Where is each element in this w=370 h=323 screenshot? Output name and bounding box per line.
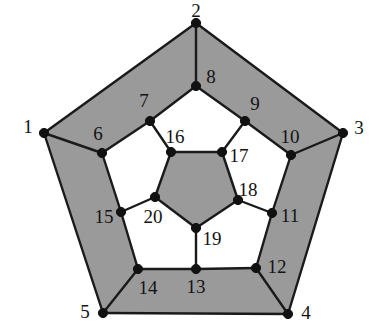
vertex-label-3: 3 — [354, 118, 364, 137]
vertex-label-2: 2 — [191, 1, 201, 20]
graph-vertex-16 — [166, 147, 175, 156]
vertex-label-11: 11 — [281, 206, 299, 225]
vertex-label-16: 16 — [166, 127, 185, 146]
graph-vertex-7 — [145, 116, 154, 125]
vertex-label-14: 14 — [139, 278, 158, 297]
graph-vertex-10 — [286, 150, 295, 159]
graph-vertex-8 — [191, 81, 200, 90]
graph-vertex-20 — [150, 192, 159, 201]
vertex-label-8: 8 — [206, 67, 216, 86]
graph-vertex-4 — [283, 309, 292, 318]
graph-vertex-9 — [240, 116, 249, 125]
vertex-label-13: 13 — [187, 277, 206, 296]
graph-vertex-6 — [97, 148, 106, 157]
graph-vertex-1 — [39, 128, 48, 137]
graph-vertex-15 — [116, 207, 125, 216]
vertex-label-4: 4 — [301, 303, 311, 322]
graph-vertex-3 — [338, 128, 347, 137]
graph-edge-12-13 — [196, 268, 256, 269]
vertex-label-20: 20 — [144, 207, 163, 226]
vertex-label-18: 18 — [239, 180, 258, 199]
vertex-label-15: 15 — [95, 207, 114, 226]
vertex-label-19: 19 — [203, 229, 222, 248]
graph-edge-4-5 — [103, 313, 288, 314]
graph-vertex-13 — [191, 264, 200, 273]
graph-canvas — [0, 0, 370, 323]
vertex-label-12: 12 — [268, 257, 287, 276]
vertex-label-5: 5 — [80, 302, 90, 321]
graph-vertex-12 — [251, 263, 260, 272]
vertex-label-6: 6 — [93, 124, 103, 143]
vertex-label-17: 17 — [230, 146, 249, 165]
graph-vertex-17 — [217, 147, 226, 156]
graph-vertex-5 — [98, 308, 107, 317]
graph-vertex-11 — [267, 208, 276, 217]
graph-vertex-14 — [133, 264, 142, 273]
vertex-label-7: 7 — [139, 91, 149, 110]
graph-vertex-19 — [191, 223, 200, 232]
vertex-label-9: 9 — [250, 94, 260, 113]
graph-figure: 1234567891011121314151617181920 — [0, 0, 370, 323]
vertex-label-10: 10 — [281, 127, 300, 146]
vertex-label-1: 1 — [23, 117, 33, 136]
